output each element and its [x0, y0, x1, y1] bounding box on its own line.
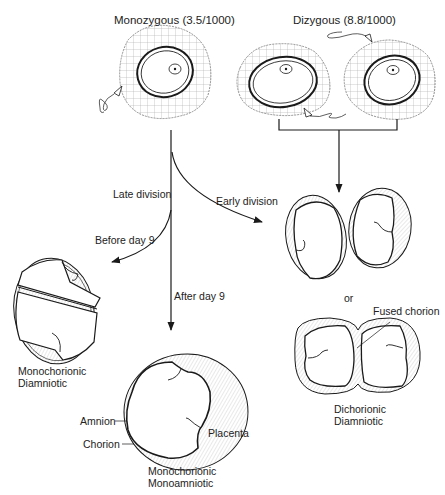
- twinning-diagram: Monozygous (3.5/1000) Dizygous (8.8/1000…: [0, 0, 445, 495]
- dizygous-zygote-right: [328, 32, 436, 119]
- di-di-label-line1: Dichorionic: [334, 403, 386, 415]
- or-label: or: [344, 292, 353, 304]
- dichorionic-fused-sacs: [295, 318, 420, 394]
- mono-mono-sac: [115, 349, 253, 475]
- dizygous-title: Dizygous (8.8/1000): [293, 14, 396, 26]
- late-division-label: Late division: [113, 188, 171, 200]
- dizygous-zygote-left: [237, 44, 346, 118]
- mono-mono-label-line1: Monochorionic: [148, 465, 216, 477]
- mono-di-label-line1: Monochorionic: [18, 365, 86, 377]
- placenta-label: Placenta: [208, 427, 249, 439]
- early-division-label: Early division: [216, 195, 278, 207]
- before-day-9-label: Before day 9: [95, 234, 155, 246]
- di-di-label-line2: Diamniotic: [334, 415, 383, 427]
- monozygous-zygote: [99, 25, 211, 118]
- mono-di-label-line2: Diamniotic: [18, 377, 67, 389]
- mono-di-sac: [7, 253, 101, 369]
- mono-mono-label-line2: Monoamniotic: [148, 477, 213, 489]
- dichorionic-separate-sacs: [279, 184, 416, 283]
- after-day-9-label: After day 9: [174, 290, 225, 302]
- amnion-label: Amnion: [80, 415, 116, 427]
- fused-chorion-label: Fused chorion: [373, 305, 440, 317]
- monozygous-title: Monozygous (3.5/1000): [114, 14, 235, 26]
- dizygous-bracket: [279, 119, 397, 192]
- chorion-label: Chorion: [83, 438, 120, 450]
